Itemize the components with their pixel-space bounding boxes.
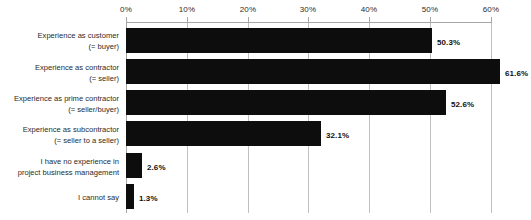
tick-mark-50 xyxy=(430,17,431,22)
tick-label-50: 50% xyxy=(422,5,439,14)
tick-label-40: 40% xyxy=(361,5,378,14)
category-label: Experience as contractor (= seller) xyxy=(0,63,119,84)
bar-chart: 0% 10% 20% 30% 40% 50% 60% Experience as… xyxy=(0,0,531,220)
tick-mark-30 xyxy=(308,17,309,22)
bar-value-label: 2.6% xyxy=(147,163,166,172)
bar xyxy=(126,153,142,178)
bar xyxy=(126,90,446,115)
category-label: Experience as subcontractor (= seller to… xyxy=(0,125,119,146)
tick-mark-0 xyxy=(126,17,127,22)
gridline-60 xyxy=(491,22,492,213)
category-label: I cannot say xyxy=(0,193,119,204)
bar-value-label: 52.6% xyxy=(451,100,474,109)
category-label: Experience as prime contractor (= seller… xyxy=(0,94,119,115)
bar xyxy=(126,59,500,84)
bar xyxy=(126,184,134,209)
tick-label-20: 20% xyxy=(240,5,257,14)
tick-label-10: 10% xyxy=(179,5,196,14)
tick-label-0: 0% xyxy=(120,5,132,14)
tick-mark-40 xyxy=(369,17,370,22)
tick-mark-10 xyxy=(187,17,188,22)
tick-mark-20 xyxy=(248,17,249,22)
bar-value-label: 50.3% xyxy=(437,38,460,47)
bar-value-label: 32.1% xyxy=(326,131,349,140)
tick-label-30: 30% xyxy=(300,5,317,14)
category-label: Experience as customer (= buyer) xyxy=(0,31,119,52)
tick-mark-60 xyxy=(491,17,492,22)
tick-label-60: 60% xyxy=(483,5,500,14)
bar xyxy=(126,28,432,53)
category-label: I have no experience in project business… xyxy=(0,157,119,178)
bar xyxy=(126,121,321,146)
bar-value-label: 1.3% xyxy=(139,194,158,203)
x-axis-line xyxy=(126,22,492,23)
bar-value-label: 61.6% xyxy=(505,69,528,78)
